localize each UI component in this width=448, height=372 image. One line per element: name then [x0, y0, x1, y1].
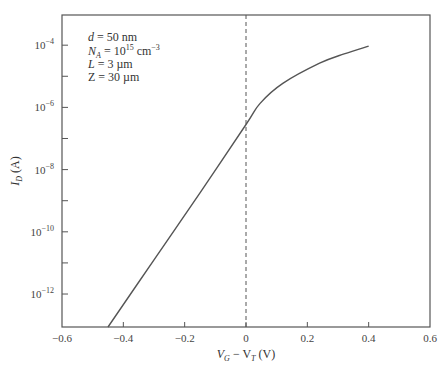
- y-tick-label: 10−12: [30, 286, 54, 300]
- y-tick-label: 10−4: [34, 37, 54, 51]
- y-axis-label: ID (A): [8, 156, 24, 186]
- y-tick-label: 10−10: [30, 224, 54, 238]
- annotation-z: Z = 30 µm: [88, 70, 140, 84]
- x-tick-label: 0: [243, 332, 249, 344]
- x-tick-label: 0.2: [300, 332, 314, 344]
- chart: −0.6−0.4−0.200.20.40.6 10−410−610−810−10…: [0, 0, 448, 372]
- y-tick-label: 10−6: [34, 99, 54, 113]
- x-axis-label: VG − VT (V): [217, 347, 275, 363]
- annotation-l: L = 3 µm: [87, 57, 133, 71]
- x-tick-label: 0.4: [362, 332, 376, 344]
- x-tick-label: −0.6: [52, 332, 72, 344]
- parameter-annotation: d = 50 nm NA = 1015 cm−3 L = 3 µm Z = 30…: [87, 30, 160, 84]
- annotation-d: d = 50 nm: [88, 30, 138, 44]
- x-tick-label: −0.2: [175, 332, 195, 344]
- id-curve: [108, 46, 369, 327]
- y-tick-label: 10−8: [34, 162, 54, 176]
- x-tick-label: 0.6: [423, 332, 437, 344]
- x-tick-label: −0.4: [113, 332, 133, 344]
